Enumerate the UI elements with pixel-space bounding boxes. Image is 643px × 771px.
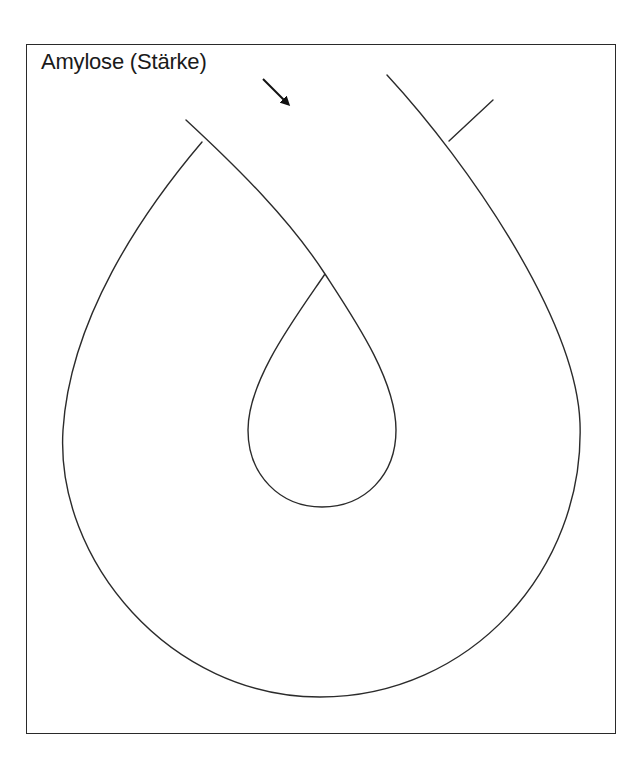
branch <box>449 100 493 141</box>
pointer-arrow <box>263 79 288 104</box>
amylose-diagram <box>0 0 643 771</box>
inner-chain <box>186 120 396 507</box>
outer-chain <box>63 75 581 697</box>
